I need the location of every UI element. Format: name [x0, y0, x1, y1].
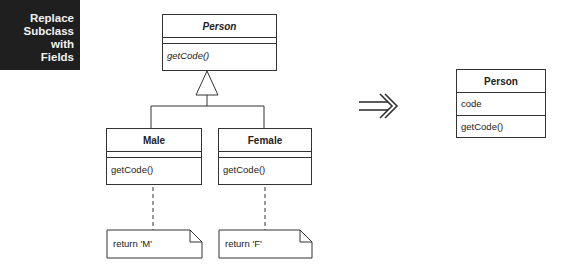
class-male: Male getCode()	[106, 128, 202, 185]
class-name: Male	[107, 129, 201, 152]
class-operation: getCode()	[163, 44, 276, 68]
class-name: Person	[457, 70, 545, 93]
class-name: Female	[219, 129, 311, 152]
generalization-triangle-icon	[196, 71, 218, 95]
class-operation: getCode()	[457, 116, 545, 138]
class-female: Female getCode()	[218, 128, 312, 185]
male-note-text: return 'M'	[113, 238, 152, 249]
class-operation: getCode()	[219, 158, 311, 182]
class-person-refactored: Person code getCode()	[456, 69, 546, 138]
class-attribute: code	[457, 93, 545, 116]
class-operation: getCode()	[107, 158, 201, 182]
female-note-text: return 'F'	[225, 238, 262, 249]
class-person-abstract: Person getCode()	[162, 14, 277, 71]
transform-arrow-icon	[359, 94, 397, 118]
class-name: Person	[163, 15, 276, 38]
